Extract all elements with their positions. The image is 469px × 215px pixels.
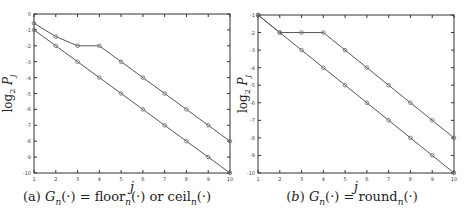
x-tick-label: 6 bbox=[141, 176, 144, 182]
x-tick-label: 3 bbox=[300, 176, 303, 182]
x-tick-label: 9 bbox=[431, 176, 434, 182]
y-tick-label: -2 bbox=[250, 30, 255, 36]
x-tick-label: 10 bbox=[227, 176, 233, 182]
y-tick-label: 0 bbox=[28, 11, 31, 17]
plot-frame bbox=[34, 14, 230, 173]
y-tick-label: -5 bbox=[26, 91, 31, 97]
x-tick-label: 3 bbox=[76, 176, 79, 182]
y-tick-label: -3 bbox=[26, 59, 31, 65]
y-tick-label: -10 bbox=[23, 170, 31, 176]
series-line-upper bbox=[258, 15, 454, 138]
x-tick-label: 10 bbox=[451, 176, 457, 182]
y-tick-label: -9 bbox=[26, 154, 31, 160]
chart-a-plot: 123456789100-1-2-3-4-5-6-7-8-9-10jlog2 P… bbox=[0, 0, 234, 215]
y-axis-label: log2 Pj bbox=[1, 74, 17, 113]
chart-a-caption: (a) Gn(·) = floorn(·) or ceiln(·) bbox=[0, 189, 234, 207]
y-tick-label: -1 bbox=[26, 27, 31, 33]
x-tick-label: 8 bbox=[409, 176, 412, 182]
x-tick-label: 7 bbox=[387, 176, 390, 182]
x-tick-label: 1 bbox=[32, 176, 35, 182]
y-axis-label: log2 Pj bbox=[236, 74, 252, 113]
y-tick-label: -2 bbox=[26, 43, 31, 49]
x-tick-label: 2 bbox=[54, 176, 57, 182]
x-tick-label: 2 bbox=[278, 176, 281, 182]
y-tick-label: -3 bbox=[250, 47, 255, 53]
chart-b-caption: (b) Gn(·) = roundn(·) bbox=[235, 189, 469, 207]
y-tick-label: -4 bbox=[250, 65, 255, 71]
y-tick-label: -1 bbox=[250, 12, 255, 18]
y-tick-label: -6 bbox=[26, 106, 31, 112]
y-tick-label: -8 bbox=[26, 138, 31, 144]
y-tick-label: -9 bbox=[250, 152, 255, 158]
y-tick-label: -8 bbox=[250, 135, 255, 141]
series-line-lower bbox=[34, 30, 230, 173]
x-tick-label: 4 bbox=[98, 176, 101, 182]
chart-a: 123456789100-1-2-3-4-5-6-7-8-9-10jlog2 P… bbox=[0, 0, 234, 215]
x-tick-label: 1 bbox=[256, 176, 259, 182]
x-tick-label: 9 bbox=[207, 176, 210, 182]
series-line-lower bbox=[258, 15, 454, 173]
x-tick-label: 4 bbox=[322, 176, 325, 182]
chart-b: 12345678910-1-2-3-4-5-6-7-8-9-10jlog2 Pj… bbox=[235, 0, 469, 215]
y-tick-label: -7 bbox=[250, 117, 255, 123]
series-line-upper bbox=[34, 23, 230, 141]
x-tick-label: 7 bbox=[163, 176, 166, 182]
x-tick-label: 6 bbox=[365, 176, 368, 182]
y-tick-label: -7 bbox=[26, 122, 31, 128]
y-tick-label: -6 bbox=[250, 100, 255, 106]
x-tick-label: 8 bbox=[185, 176, 188, 182]
y-tick-label: -10 bbox=[247, 170, 255, 176]
chart-b-plot: 12345678910-1-2-3-4-5-6-7-8-9-10jlog2 Pj bbox=[235, 0, 469, 215]
x-tick-label: 5 bbox=[344, 176, 347, 182]
x-tick-label: 5 bbox=[120, 176, 123, 182]
y-tick-label: -5 bbox=[250, 82, 255, 88]
y-tick-label: -4 bbox=[26, 75, 31, 81]
